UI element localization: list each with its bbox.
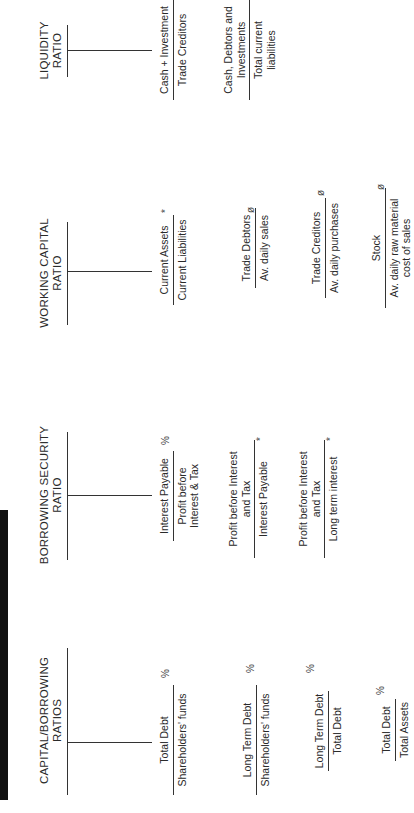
formula-cash-trade-creditors: Cash + Investment Trade Creditors xyxy=(158,0,188,100)
formula-creditor-days: Trade Creditors Av. daily purchases xyxy=(310,198,340,298)
tree-line xyxy=(67,25,68,77)
formula-ltd-total-debt: Long Term Debt Total Debt xyxy=(313,691,343,771)
tree-branch xyxy=(67,742,152,743)
tree-branch xyxy=(67,495,152,496)
header-line1: LIQUIDITY xyxy=(38,13,51,88)
header-line1: WORKING CAPITAL xyxy=(38,213,51,333)
unit-days: ø xyxy=(245,207,256,213)
tree-line xyxy=(67,648,68,795)
formula-quick-ratio: Cash, Debtors and Investments Total curr… xyxy=(222,0,277,100)
header-line1: CAPITAL/BORROWING xyxy=(38,643,51,798)
tree-branch xyxy=(67,50,152,51)
unit-times: * xyxy=(325,437,336,441)
unit-percent: % xyxy=(160,436,171,445)
unit-percent: % xyxy=(245,664,256,673)
unit-days: ø xyxy=(315,190,326,196)
liquidity-header: LIQUIDITY RATIO xyxy=(38,13,64,88)
ratio-chart-page: CAPITAL/BORROWING RATIOS Total Debt Shar… xyxy=(0,0,414,813)
formula-total-debt-assets: Total Debt Total Assets xyxy=(380,699,410,761)
formula-stock-days: Stock Av. daily raw material cost of sal… xyxy=(370,188,413,308)
formula-pbit-interest: Profit before Interest and Tax Interest … xyxy=(227,440,270,558)
formula-pbit-long-term: Profit before Interest and Tax Long term… xyxy=(297,440,340,558)
unit-days: ø xyxy=(375,184,386,190)
borrowing-security-header: BORROWING SECURITY RATIO xyxy=(38,425,64,565)
capital-borrowing-header: CAPITAL/BORROWING RATIOS xyxy=(38,643,64,798)
tree-line xyxy=(67,222,68,325)
unit-percent: % xyxy=(160,669,171,678)
unit-times: * xyxy=(160,209,171,213)
header-line2: RATIO xyxy=(51,425,64,565)
unit-percent: % xyxy=(305,664,316,673)
tree-branch xyxy=(67,271,152,272)
formula-debtor-days: Trade Debtors Av. daily sales xyxy=(240,208,270,288)
header-line1: BORROWING SECURITY xyxy=(38,425,51,565)
unit-percent: % xyxy=(375,686,386,695)
unit-times: * xyxy=(255,437,266,441)
formula-current-ratio: Current Assets Current Liabilities xyxy=(158,215,188,305)
working-capital-header: WORKING CAPITAL RATIO xyxy=(38,213,64,333)
formula-interest-profit: Interest Payable Profit before Interest … xyxy=(158,451,201,541)
header-line2: RATIOS xyxy=(51,643,64,798)
formula-total-debt-shareholders: Total Debt Shareholders' funds xyxy=(158,685,188,795)
tree-line xyxy=(67,432,68,560)
black-edge-bar xyxy=(0,510,8,800)
header-line2: RATIO xyxy=(51,213,64,333)
header-line2: RATIO xyxy=(51,13,64,88)
formula-ltd-shareholders: Long Term Debt Shareholders' funds xyxy=(241,685,271,795)
